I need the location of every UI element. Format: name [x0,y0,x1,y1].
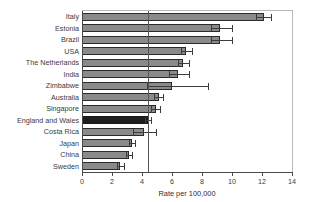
x-axis-title: Rate per 100,000 [82,189,292,198]
category-label-6: Zimbabwe [46,81,79,90]
error-bar-line-4 [178,63,189,64]
category-label-4: The Netherlands [26,58,79,67]
error-bar-line-6 [147,86,209,87]
bar-singapore[interactable] [82,105,156,113]
error-bar-cap-high-0 [271,14,272,21]
error-bar-cap-low-9 [145,117,146,124]
x-tick-label-4: 4 [132,177,152,186]
error-bar-cap-high-8 [160,106,161,113]
x-tick-label-14: 14 [282,177,302,186]
x-tick-label-8: 8 [192,177,212,186]
x-tick-12 [262,173,263,176]
category-label-13: Sweden [53,162,79,171]
error-bar-cap-high-11 [135,140,136,147]
bar-brazil[interactable] [82,36,220,44]
category-label-7: Australia [51,93,79,102]
error-bar-cap-high-13 [124,163,125,170]
error-bar-cap-low-12 [126,152,127,159]
error-bar-line-0 [256,17,271,18]
plot-right-border [292,10,293,172]
category-label-11: Japan [59,139,79,148]
error-bar-cap-low-2 [211,37,212,44]
error-bar-cap-low-10 [133,129,134,136]
error-bar-cap-low-7 [154,94,155,101]
error-bar-line-3 [181,51,192,52]
error-bar-line-8 [151,109,160,110]
category-label-3: USA [64,47,79,56]
error-bar-cap-low-4 [178,60,179,67]
error-bar-cap-high-12 [132,152,133,159]
error-bar-cap-low-1 [211,25,212,32]
bar-estonia[interactable] [82,24,220,32]
bar-england-and-wales[interactable] [82,116,148,124]
error-bar-cap-high-5 [189,71,190,78]
error-bar-cap-high-9 [151,117,152,124]
error-bar-cap-low-5 [169,71,170,78]
y-axis-line [82,11,83,172]
x-tick-label-2: 2 [102,177,122,186]
error-bar-cap-high-7 [163,94,164,101]
bar-chart: ItalyEstoniaBrazilUSAThe NetherlandsIndi… [0,0,317,202]
error-bar-line-13 [117,166,125,167]
bar-india[interactable] [82,70,178,78]
bar-italy[interactable] [82,13,264,21]
error-bar-cap-high-4 [189,60,190,67]
error-bar-line-2 [211,40,232,41]
bar-japan[interactable] [82,139,132,147]
error-bar-cap-low-13 [117,163,118,170]
error-bar-cap-high-3 [192,48,193,55]
x-tick-6 [172,173,173,176]
x-tick-10 [232,173,233,176]
error-bar-cap-low-11 [129,140,130,147]
category-label-2: Brazil [61,35,79,44]
category-label-5: India [63,70,79,79]
error-bar-cap-low-8 [151,106,152,113]
bar-the-netherlands[interactable] [82,59,183,67]
error-bar-cap-high-10 [156,129,157,136]
error-bar-cap-high-1 [232,25,233,32]
error-bar-line-5 [169,74,189,75]
x-tick-label-12: 12 [252,177,272,186]
error-bar-cap-high-2 [232,37,233,44]
error-bar-cap-low-3 [181,48,182,55]
bar-usa[interactable] [82,47,186,55]
error-bar-line-10 [133,132,156,133]
error-bar-cap-low-0 [256,14,257,21]
category-label-10: Costa Rica [44,127,79,136]
error-bar-line-7 [154,97,163,98]
x-tick-4 [142,173,143,176]
x-tick-14 [292,173,293,176]
category-label-0: Italy [66,12,79,21]
plot-top-border [82,10,292,11]
category-label-8: Singapore [46,104,79,113]
bar-china[interactable] [82,151,129,159]
error-bar-line-1 [211,28,232,29]
x-tick-0 [82,173,83,176]
category-label-9: England and Wales [17,116,79,125]
x-tick-2 [112,173,113,176]
x-tick-label-10: 10 [222,177,242,186]
reference-line [148,11,149,172]
x-tick-8 [202,173,203,176]
x-tick-label-0: 0 [72,177,92,186]
bar-sweden[interactable] [82,162,120,170]
x-tick-label-6: 6 [162,177,182,186]
category-label-1: Estonia [55,24,79,33]
category-label-12: China [60,150,79,159]
error-bar-cap-high-6 [208,83,209,90]
